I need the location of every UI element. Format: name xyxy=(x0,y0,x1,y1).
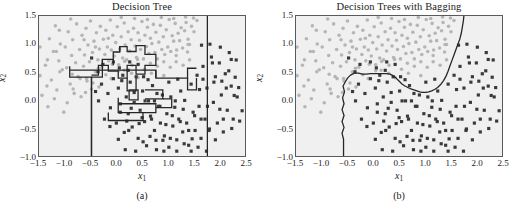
panel-a-yticks: 1.5 1.0 0.5 0.0 −0.5 −1.0 xyxy=(0,15,36,157)
panel-a-plot-svg xyxy=(39,16,245,156)
panel-a-xlabel-sub: 1 xyxy=(142,175,146,183)
panel-a-ylabel: x2 xyxy=(0,74,8,82)
panel-a-ylabel-sub: 2 xyxy=(0,74,8,78)
panel-b-ylabel-base: x xyxy=(253,78,264,82)
panel-a-ytick-3: 0.0 xyxy=(2,95,36,105)
panel-a-plot-area xyxy=(38,15,246,157)
panel-a-ytick-1: 1.0 xyxy=(2,38,36,48)
panel-b-plot-svg xyxy=(296,16,502,156)
panel-a-xlabel: x1 xyxy=(38,170,246,183)
panel-a-ytick-0: 1.5 xyxy=(2,10,36,20)
panel-b-xtick-8: 2.5 xyxy=(486,158,514,168)
panel-b-title: Decision Trees with Bagging xyxy=(257,1,514,12)
panel-b-ytick-3: 0.0 xyxy=(259,95,293,105)
panel-b-ytick-0: 1.5 xyxy=(259,10,293,20)
panel-a-ytick-4: −0.5 xyxy=(2,124,36,134)
panel-b-plot-area xyxy=(295,15,503,157)
panel-b-ylabel-sub: 2 xyxy=(257,74,265,78)
panel-a-caption: (a) xyxy=(38,190,246,201)
panel-b-xlabel-sub: 1 xyxy=(399,175,403,183)
panel-b-ytick-1: 1.0 xyxy=(259,38,293,48)
panel-b-yticks: 1.5 1.0 0.5 0.0 −0.5 −1.0 xyxy=(257,15,293,157)
panel-b-ytick-4: −0.5 xyxy=(259,124,293,134)
panel-decision-tree: Decision Tree xyxy=(0,0,257,211)
panel-b-xlabel: x1 xyxy=(295,170,503,183)
panel-a-title: Decision Tree xyxy=(0,1,257,12)
panel-b-caption: (b) xyxy=(295,190,503,201)
panel-b-ylabel: x2 xyxy=(253,74,266,82)
figure-container: Decision Tree xyxy=(0,0,514,211)
panel-decision-trees-bagging: Decision Trees with Bagging xyxy=(257,0,514,211)
panel-a-ylabel-base: x xyxy=(0,78,7,82)
